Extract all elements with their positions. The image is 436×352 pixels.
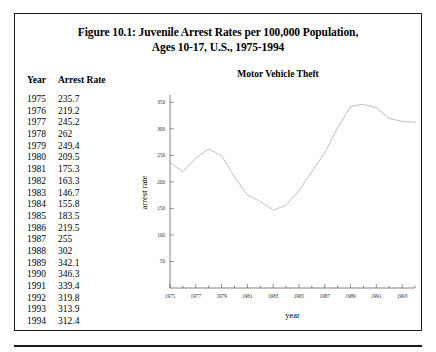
y-tick-label: 300 — [157, 126, 165, 132]
x-tick-label: 1981 — [242, 293, 253, 299]
y-tick-label: 350 — [157, 99, 165, 105]
x-tick-label: 1979 — [216, 293, 227, 299]
table-row: 1985183.5 — [27, 211, 106, 223]
table-row: 1976219.2 — [27, 106, 106, 118]
cell-year: 1993 — [27, 304, 58, 316]
x-tick-label: 1991 — [371, 293, 382, 299]
cell-arrest-rate: 302 — [58, 246, 106, 258]
cell-year: 1979 — [27, 141, 58, 153]
x-tick-label: 1989 — [345, 293, 356, 299]
x-tick-label: 1985 — [294, 293, 305, 299]
y-tick-label: 250 — [157, 152, 165, 158]
x-tick-label: 1993 — [397, 293, 408, 299]
table-body: 1975235.71976219.21977245.21978262197924… — [27, 94, 106, 328]
arrest-rate-table: Year Arrest Rate 1975235.71976219.219772… — [27, 75, 137, 328]
table-header-row: Year Arrest Rate — [27, 75, 106, 94]
line-chart: 5010015020025030035019751977197919811983… — [137, 91, 419, 327]
cell-arrest-rate: 249.4 — [58, 141, 106, 153]
cell-arrest-rate: 146.7 — [58, 188, 106, 200]
table-row: 1992319.8 — [27, 293, 106, 305]
y-tick-label: 150 — [157, 205, 165, 211]
table-row: 1986219.5 — [27, 223, 106, 235]
cell-arrest-rate: 339.4 — [58, 281, 106, 293]
cell-year: 1982 — [27, 176, 58, 188]
cell-arrest-rate: 262 — [58, 129, 106, 141]
table-row: 1987255 — [27, 234, 106, 246]
column-header-year: Year — [27, 75, 58, 94]
table-row: 1991339.4 — [27, 281, 106, 293]
cell-year: 1977 — [27, 117, 58, 129]
cell-year: 1976 — [27, 106, 58, 118]
chart-panel: Motor Vehicle Theft 50100150200250300350… — [137, 69, 419, 327]
table-row: 1989342.1 — [27, 258, 106, 270]
cell-arrest-rate: 183.5 — [58, 211, 106, 223]
table-row: 1981175.3 — [27, 164, 106, 176]
figure-title-line-1: Figure 10.1: Juvenile Arrest Rates per 1… — [15, 25, 421, 40]
table: Year Arrest Rate 1975235.71976219.219772… — [27, 75, 106, 328]
chart-title: Motor Vehicle Theft — [137, 69, 419, 79]
cell-year: 1985 — [27, 211, 58, 223]
cell-arrest-rate: 235.7 — [58, 94, 106, 106]
cell-year: 1990 — [27, 269, 58, 281]
cell-year: 1994 — [27, 316, 58, 328]
y-axis-title: arrest rate — [139, 175, 149, 209]
y-tick-label: 50 — [160, 258, 166, 264]
cell-year: 1975 — [27, 94, 58, 106]
x-tick-label: 1977 — [191, 293, 202, 299]
cell-year: 1980 — [27, 152, 58, 164]
figure-title: Figure 10.1: Juvenile Arrest Rates per 1… — [15, 25, 421, 55]
figure-title-line-2: Ages 10-17, U.S., 1975-1994 — [15, 40, 421, 55]
table-row: 1979249.4 — [27, 141, 106, 153]
cell-year: 1987 — [27, 234, 58, 246]
cell-arrest-rate: 313.9 — [58, 304, 106, 316]
cell-arrest-rate: 175.3 — [58, 164, 106, 176]
cell-year: 1984 — [27, 199, 58, 211]
footer-divider — [14, 345, 422, 347]
cell-arrest-rate: 346.3 — [58, 269, 106, 281]
cell-arrest-rate: 255 — [58, 234, 106, 246]
x-tick-label: 1975 — [165, 293, 176, 299]
table-row: 1983146.7 — [27, 188, 106, 200]
cell-arrest-rate: 312.4 — [58, 316, 106, 328]
cell-year: 1986 — [27, 223, 58, 235]
cell-year: 1978 — [27, 129, 58, 141]
x-axis-title: year — [285, 310, 300, 320]
cell-year: 1981 — [27, 164, 58, 176]
x-tick-label: 1983 — [268, 293, 279, 299]
table-row: 1977245.2 — [27, 117, 106, 129]
table-row: 1978262 — [27, 129, 106, 141]
data-series-line — [170, 104, 415, 210]
figure-container: Figure 10.1: Juvenile Arrest Rates per 1… — [14, 13, 422, 331]
cell-arrest-rate: 342.1 — [58, 258, 106, 270]
table-row: 1980209.5 — [27, 152, 106, 164]
table-row: 1990346.3 — [27, 269, 106, 281]
cell-arrest-rate: 163.3 — [58, 176, 106, 188]
y-tick-label: 100 — [157, 232, 165, 238]
table-row: 1994312.4 — [27, 316, 106, 328]
cell-year: 1983 — [27, 188, 58, 200]
table-row: 1975235.7 — [27, 94, 106, 106]
x-tick-label: 1987 — [320, 293, 331, 299]
table-row: 1982163.3 — [27, 176, 106, 188]
cell-arrest-rate: 209.5 — [58, 152, 106, 164]
cell-year: 1988 — [27, 246, 58, 258]
cell-year: 1989 — [27, 258, 58, 270]
table-row: 1984155.8 — [27, 199, 106, 211]
column-header-arrest-rate: Arrest Rate — [58, 75, 106, 94]
cell-arrest-rate: 219.5 — [58, 223, 106, 235]
cell-arrest-rate: 219.2 — [58, 106, 106, 118]
cell-arrest-rate: 245.2 — [58, 117, 106, 129]
cell-year: 1991 — [27, 281, 58, 293]
cell-year: 1992 — [27, 293, 58, 305]
table-row: 1993313.9 — [27, 304, 106, 316]
y-tick-label: 200 — [157, 179, 165, 185]
cell-arrest-rate: 155.8 — [58, 199, 106, 211]
cell-arrest-rate: 319.8 — [58, 293, 106, 305]
table-row: 1988302 — [27, 246, 106, 258]
